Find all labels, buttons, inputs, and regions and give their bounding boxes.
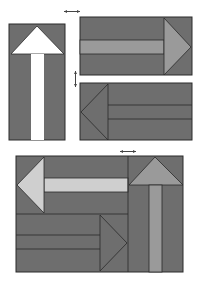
assembled-left-arrow-shaft [44,178,128,192]
right-arrow-panel [80,17,192,75]
assembled-up-arrow-shaft [149,185,162,272]
up-arrow-shaft [31,54,44,140]
horizontal-join-marker-bottom [120,150,136,153]
vertical-join-marker [74,71,77,87]
right-arrow-shaft [80,40,164,54]
quilt-diagram [0,0,203,291]
left-arrow-panel [80,83,192,140]
up-arrow-panel [9,24,65,140]
horizontal-join-marker-top [64,10,80,13]
assembled-panel [16,156,183,272]
